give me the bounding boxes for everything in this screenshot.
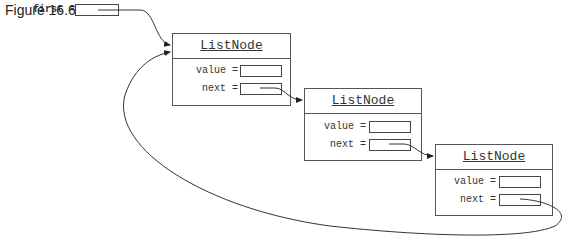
node3-next-to-node1-loop-arrow (124, 52, 562, 235)
first-to-node1-arrow (98, 10, 170, 45)
node2-next-to-node3-arrow (389, 144, 433, 156)
node1-next-to-node2-arrow (260, 88, 302, 100)
pointer-arrows (0, 0, 581, 243)
